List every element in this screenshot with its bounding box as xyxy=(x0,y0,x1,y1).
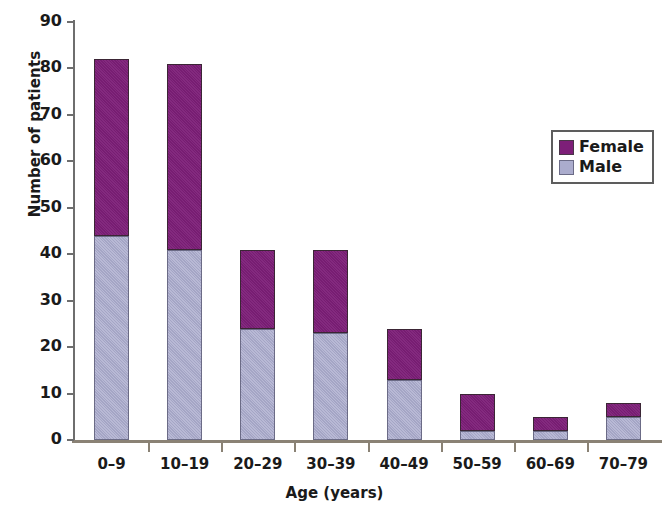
bar-segment-female xyxy=(313,250,348,334)
y-tick-label: 70 xyxy=(18,104,62,123)
y-tick-mark xyxy=(67,393,74,395)
x-tick-mark xyxy=(294,443,296,452)
bar-segment-female xyxy=(387,329,422,380)
y-tick-label: 20 xyxy=(18,336,62,355)
bar-segment-male xyxy=(240,329,275,440)
legend-item-female: Female xyxy=(559,137,644,157)
bar-group-20-29 xyxy=(240,250,275,440)
bar-segment-male xyxy=(167,250,202,440)
y-tick-label: 10 xyxy=(18,383,62,402)
y-tick-label: 60 xyxy=(18,150,62,169)
x-tick-mark xyxy=(368,443,370,452)
legend-swatch-male-icon xyxy=(559,160,574,175)
y-tick-mark xyxy=(67,300,74,302)
x-tick-mark xyxy=(514,443,516,452)
x-tick-mark xyxy=(221,443,223,452)
y-tick-mark xyxy=(67,67,74,69)
legend-swatch-female-icon xyxy=(559,140,574,155)
bar-segment-male xyxy=(533,431,568,440)
bar-group-60-69 xyxy=(533,417,568,440)
y-tick-mark xyxy=(67,253,74,255)
y-tick-label: 0 xyxy=(18,429,62,448)
y-tick-label: 30 xyxy=(18,290,62,309)
bar-segment-male xyxy=(460,431,495,440)
legend-label-male: Male xyxy=(579,159,622,175)
bar-segment-male xyxy=(387,380,422,440)
y-tick-label: 50 xyxy=(18,197,62,216)
bar-segment-male xyxy=(606,417,641,440)
bar-group-50-59 xyxy=(460,394,495,440)
x-tick-mark xyxy=(441,443,443,452)
legend: Female Male xyxy=(551,130,654,184)
bar-group-0-9 xyxy=(94,59,129,440)
x-tick-label-70-79: 70–79 xyxy=(578,455,668,473)
bar-group-10-19 xyxy=(167,64,202,440)
bar-segment-female xyxy=(606,403,641,417)
bar-segment-female xyxy=(240,250,275,329)
y-tick-mark xyxy=(67,207,74,209)
y-tick-mark xyxy=(67,114,74,116)
y-tick-mark xyxy=(67,160,74,162)
bar-group-70-79 xyxy=(606,403,641,440)
legend-item-male: Male xyxy=(559,157,644,177)
bar-segment-female xyxy=(533,417,568,431)
y-tick-label: 80 xyxy=(18,57,62,76)
bar-group-30-39 xyxy=(313,250,348,440)
bar-segment-male xyxy=(313,333,348,440)
bar-chart: Number of patients 0102030405060708090 0… xyxy=(0,0,669,513)
x-tick-mark xyxy=(148,443,150,452)
y-tick-label: 40 xyxy=(18,243,62,262)
y-axis-line xyxy=(73,20,75,442)
y-tick-label: 90 xyxy=(18,11,62,30)
y-tick-mark xyxy=(67,21,74,23)
bar-segment-male xyxy=(94,236,129,440)
y-tick-mark xyxy=(67,346,74,348)
x-axis-title: Age (years) xyxy=(0,484,669,502)
bar-segment-female xyxy=(460,394,495,431)
bar-segment-female xyxy=(94,59,129,235)
bar-segment-female xyxy=(167,64,202,250)
y-axis-title: Number of patients xyxy=(26,14,44,254)
y-tick-mark xyxy=(67,439,74,441)
bar-group-40-49 xyxy=(387,329,422,440)
legend-label-female: Female xyxy=(579,139,644,155)
x-tick-mark xyxy=(587,443,589,452)
